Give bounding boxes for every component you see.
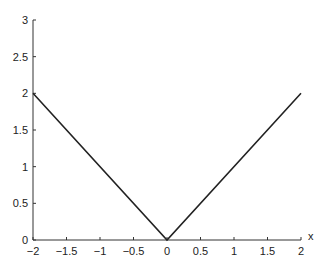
y-tick-label: 1 (22, 161, 28, 173)
x-tick-label: 1.5 (260, 245, 275, 257)
x-tick-label: −1.5 (56, 245, 78, 257)
x-axis: −2−1.5−1−0.500.511.52 (27, 237, 304, 257)
y-tick-label: 2 (22, 87, 28, 99)
abs-value-chart: 00.511.522.53 −2−1.5−1−0.500.511.52 x (0, 0, 328, 264)
x-tick-label: 2 (298, 245, 304, 257)
y-tick-label: 1.5 (13, 124, 28, 136)
y-axis: 00.511.522.53 (13, 14, 36, 246)
x-tick-label: −0.5 (123, 245, 145, 257)
x-tick-label: −2 (27, 245, 40, 257)
y-tick-label: 2.5 (13, 51, 28, 63)
y-tick-label: 3 (22, 14, 28, 26)
x-tick-label: 1 (231, 245, 237, 257)
x-tick-label: −1 (94, 245, 107, 257)
x-tick-label: 0 (164, 245, 170, 257)
x-axis-label: x (308, 230, 314, 242)
x-tick-label: 0.5 (193, 245, 208, 257)
plot-series (33, 93, 301, 240)
y-tick-label: 0.5 (13, 197, 28, 209)
series-line (33, 93, 301, 240)
